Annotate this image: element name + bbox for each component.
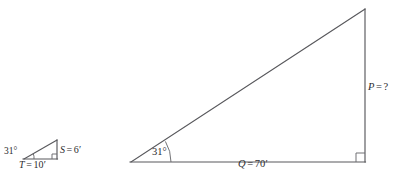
- large-q-variable: Q: [238, 158, 246, 169]
- small-s-prime: ′: [79, 144, 81, 155]
- large-triangle-horizontal-side-label: Q=70′: [238, 159, 268, 170]
- small-triangle-group: [23, 140, 58, 159]
- small-triangle-angle-label: 31°: [4, 147, 17, 157]
- large-p-value: ?: [384, 81, 389, 92]
- large-triangle-right-angle-marker: [356, 153, 365, 162]
- large-q-prime: ′: [265, 158, 267, 169]
- large-q-value: 70: [255, 158, 266, 169]
- large-p-equals: =: [375, 81, 384, 92]
- geometry-figure: 31° S=6′ T=10′ 31° P=? Q=70′: [0, 0, 400, 187]
- small-triangle-right-angle-marker: [52, 154, 57, 159]
- small-t-value: 10: [33, 159, 43, 170]
- large-q-equals: =: [246, 158, 255, 169]
- large-triangle-angle-label: 31°: [152, 147, 167, 158]
- small-t-prime: ′: [44, 159, 46, 170]
- figure-canvas: [0, 0, 400, 187]
- large-triangle-group: [130, 9, 366, 162]
- small-t-variable: T: [19, 159, 25, 170]
- large-p-variable: P: [368, 81, 375, 92]
- small-triangle-horizontal-side-label: T=10′: [19, 160, 46, 170]
- large-triangle-hypotenuse: [131, 9, 365, 162]
- small-triangle-vertical-side-label: S=6′: [60, 145, 81, 155]
- small-s-equals: =: [65, 144, 74, 155]
- large-triangle-vertical-side-label: P=?: [368, 82, 388, 93]
